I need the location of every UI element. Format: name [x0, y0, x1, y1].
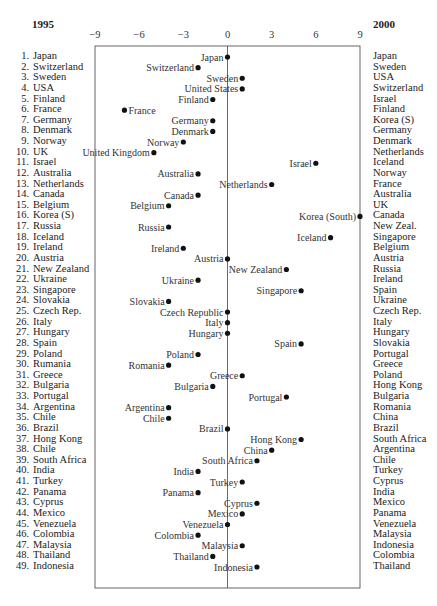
point-label: Poland: [166, 349, 194, 360]
point-label: Belgium: [130, 200, 165, 211]
point-label: Finland: [178, 94, 209, 105]
point-label: Korea (South): [299, 211, 356, 223]
point-label: Netherlands: [219, 179, 267, 190]
data-point: [181, 139, 186, 144]
point-label: Portugal: [248, 392, 282, 403]
data-point: [299, 437, 304, 442]
data-point: [166, 363, 171, 368]
point-label: Slovakia: [130, 296, 166, 307]
data-point: [225, 522, 230, 527]
point-label: Turkey: [210, 477, 239, 488]
data-point: [225, 331, 230, 336]
data-point: [240, 373, 245, 378]
point-label: Ukraine: [162, 275, 195, 286]
data-point: [284, 394, 289, 399]
point-label: South Africa: [202, 455, 253, 466]
data-point: [166, 224, 171, 229]
point-label: Singapore: [257, 285, 298, 296]
point-label: Panama: [162, 487, 194, 498]
x-tick-label: 6: [313, 29, 318, 40]
point-label: Spain: [274, 338, 297, 349]
data-point: [269, 448, 274, 453]
data-point: [195, 533, 200, 538]
point-label: Hungary: [189, 328, 224, 339]
point-label: Colombia: [155, 530, 195, 541]
data-point: [254, 564, 259, 569]
data-point: [181, 246, 186, 251]
x-tick-label: 0: [225, 29, 230, 40]
point-label: Hong Kong: [250, 434, 297, 445]
data-point: [166, 405, 171, 410]
x-tick-label: −6: [134, 29, 145, 40]
data-point: [254, 501, 259, 506]
data-point: [210, 118, 215, 123]
point-label: Japan: [201, 52, 224, 63]
data-point: [151, 150, 156, 155]
x-tick-label: −9: [89, 29, 100, 40]
point-label: United Kingdom: [82, 147, 150, 158]
data-point: [313, 161, 318, 166]
point-label: United States: [185, 83, 239, 94]
point-label: Argentina: [125, 402, 165, 413]
data-point: [195, 352, 200, 357]
data-point: [210, 384, 215, 389]
data-point: [122, 108, 127, 113]
data-point: [210, 97, 215, 102]
point-label: Greece: [210, 370, 239, 381]
point-label: Iceland: [297, 232, 326, 243]
data-point: [299, 341, 304, 346]
data-point: [299, 288, 304, 293]
point-label: Czech Republic: [160, 307, 224, 318]
point-label: Brazil: [199, 423, 224, 434]
data-point: [225, 426, 230, 431]
point-label: Chile: [143, 413, 165, 424]
point-label: Venezuela: [182, 519, 224, 530]
point-label: Switzerland: [146, 62, 194, 73]
point-label: Israel: [290, 158, 312, 169]
point-label: Italy: [205, 317, 223, 328]
data-point: [195, 469, 200, 474]
data-point: [240, 76, 245, 81]
data-point: [166, 299, 171, 304]
data-point: [357, 214, 362, 219]
point-label: New Zealand: [229, 264, 283, 275]
data-point: [269, 182, 274, 187]
point-label: Mexico: [208, 508, 239, 519]
point-label: Denmark: [172, 126, 209, 137]
data-point: [195, 490, 200, 495]
data-point: [210, 554, 215, 559]
data-point: [225, 54, 230, 59]
point-label: Malaysia: [202, 540, 239, 551]
data-point: [240, 479, 245, 484]
data-point: [240, 86, 245, 91]
data-point: [225, 309, 230, 314]
point-label: Ireland: [151, 243, 179, 254]
data-point: [225, 320, 230, 325]
data-point: [328, 235, 333, 240]
x-tick-label: 9: [357, 29, 362, 40]
point-label: Norway: [147, 137, 179, 148]
data-point: [166, 203, 171, 208]
point-label: Cyprus: [224, 498, 253, 509]
point-label: India: [174, 466, 195, 477]
point-label: Russia: [138, 222, 165, 233]
data-point: [240, 511, 245, 516]
point-label: Germany: [172, 115, 209, 126]
data-point: [195, 65, 200, 70]
x-tick-label: −3: [178, 29, 189, 40]
point-label: Austria: [194, 253, 224, 264]
point-label: Bulgaria: [174, 381, 209, 392]
data-point: [225, 256, 230, 261]
point-label: Australia: [157, 168, 194, 179]
point-label: Romania: [129, 360, 166, 371]
point-label: China: [244, 445, 268, 456]
x-tick-label: 3: [269, 29, 274, 40]
data-point: [284, 267, 289, 272]
data-point: [210, 129, 215, 134]
point-label: Canada: [164, 190, 195, 201]
point-label: France: [128, 105, 156, 116]
data-point: [195, 171, 200, 176]
data-point: [195, 278, 200, 283]
data-point: [166, 416, 171, 421]
data-point: [195, 193, 200, 198]
